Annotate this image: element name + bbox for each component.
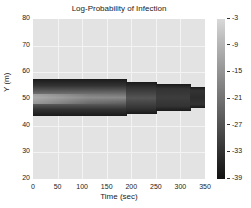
y-tick-label: 70	[14, 41, 30, 48]
colorbar-tick-label: -15	[227, 67, 242, 74]
gridline-y	[33, 152, 205, 153]
colorbar-tick-label: -21	[227, 94, 242, 101]
y-axis-label: Y (m)	[2, 73, 11, 92]
x-tick-label: 300	[170, 183, 190, 190]
x-tick-label: 150	[97, 183, 117, 190]
x-tick-label: 100	[72, 183, 92, 190]
y-tick-label: 40	[14, 121, 30, 128]
plot-area	[33, 19, 205, 179]
heatmap-band-segment	[126, 82, 156, 114]
colorbar-tick-label: -3	[227, 14, 238, 21]
colorbar	[217, 19, 225, 179]
x-tick-label: 250	[146, 183, 166, 190]
y-tick-label: 20	[14, 174, 30, 181]
colorbar-tick-label: -33	[227, 147, 242, 154]
x-tick-label: 350	[195, 183, 215, 190]
gridline-y	[33, 72, 205, 73]
heatmap-band-highlight	[33, 94, 126, 105]
colorbar-tick-label: -9	[227, 41, 238, 48]
gridline-y	[33, 46, 205, 47]
y-tick-label: 80	[14, 14, 30, 21]
y-tick-label: 60	[14, 67, 30, 74]
chart-title: Log-Probability of Infection	[33, 4, 205, 13]
colorbar-tick-label: -27	[227, 121, 242, 128]
x-tick-label: 200	[121, 183, 141, 190]
x-axis-label: Time (sec)	[33, 192, 205, 201]
x-tick-label: 50	[48, 183, 68, 190]
y-tick-label: 30	[14, 147, 30, 154]
heatmap-band-segment	[156, 84, 191, 111]
colorbar-tick-label: -39	[227, 174, 242, 181]
x-tick-label: 0	[23, 183, 43, 190]
gridline-y	[33, 126, 205, 127]
y-tick-label: 50	[14, 94, 30, 101]
heatmap-band-segment	[190, 87, 205, 108]
